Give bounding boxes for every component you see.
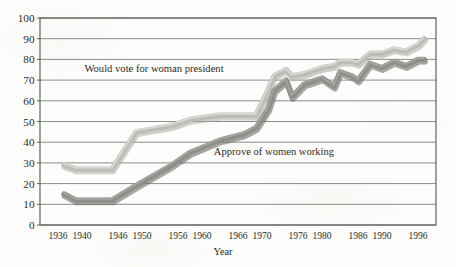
x-axis-tick-label: 1966 (228, 230, 247, 241)
y-axis-tick-label: 50 (23, 116, 35, 128)
y-axis-tick-label: 100 (18, 12, 35, 24)
x-axis-tick-label: 1976 (288, 230, 307, 241)
x-axis-tick-label: 1990 (372, 230, 391, 241)
x-axis-tick-label: 1946 (108, 230, 127, 241)
x-axis-title: Year (213, 246, 233, 257)
chart-figure: 0102030405060708090100193619401946195019… (0, 0, 456, 267)
series-annotation-label: Would vote for woman president (84, 63, 223, 74)
x-axis-tick-label: 1986 (348, 230, 367, 241)
y-axis-tick-label: 10 (23, 198, 35, 210)
y-axis-tick-label: 0 (29, 219, 35, 231)
x-axis-tick-label: 1956 (168, 230, 187, 241)
x-axis-tick-label: 1950 (132, 230, 151, 241)
x-axis-tick-label: 1936 (48, 230, 67, 241)
y-axis-tick-label: 60 (23, 95, 35, 107)
y-axis-tick-label: 80 (23, 53, 35, 65)
x-axis-tick-label: 1940 (72, 230, 91, 241)
x-axis-tick-label: 1980 (312, 230, 331, 241)
x-axis-tick-label: 1996 (408, 230, 427, 241)
series-line-highlight (64, 58, 424, 199)
x-axis-tick-label: 1970 (252, 230, 271, 241)
y-axis-tick-label: 20 (23, 178, 35, 190)
y-axis-tick-label: 40 (23, 136, 35, 148)
line-chart: 0102030405060708090100193619401946195019… (0, 0, 456, 267)
x-axis-tick-label: 1960 (192, 230, 211, 241)
y-axis-tick-label: 70 (23, 74, 35, 86)
y-axis-tick-label: 90 (23, 33, 35, 45)
series-line (64, 59, 424, 200)
y-axis-tick-label: 30 (23, 157, 35, 169)
series-annotation-label: Approve of women working (214, 146, 335, 157)
